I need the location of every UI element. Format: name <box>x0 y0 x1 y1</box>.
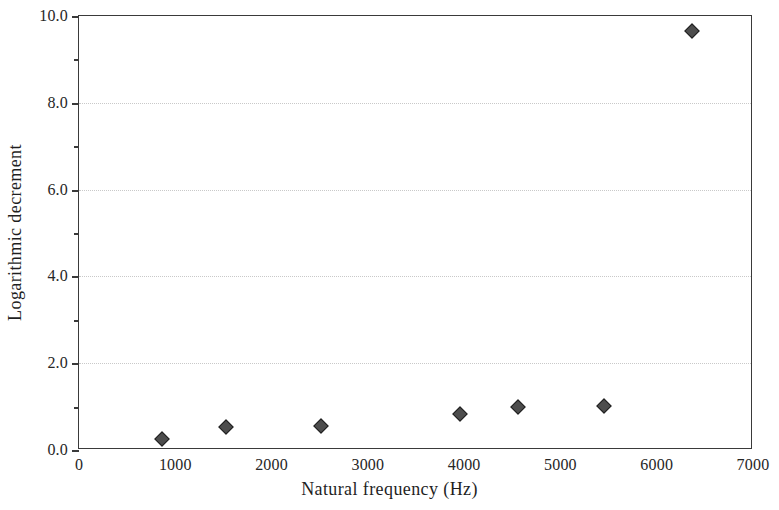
y-axis-tick <box>72 103 79 105</box>
data-point-marker <box>218 420 234 436</box>
plot-inner: 0.02.04.06.08.010.0 01000200030004000500… <box>79 16 751 448</box>
x-axis-title: Natural frequency (Hz) <box>0 479 779 500</box>
data-point-marker <box>510 399 526 415</box>
y-axis-minor-tick <box>74 320 79 322</box>
y-axis-title: Logarithmic decrement <box>4 15 26 449</box>
y-axis-minor-tick <box>74 59 79 61</box>
x-axis-tick-label: 7000 <box>737 457 770 473</box>
y-axis-tick-label: 8.0 <box>47 95 68 111</box>
y-axis-title-text: Logarithmic decrement <box>5 144 26 321</box>
y-axis-minor-tick <box>74 233 79 235</box>
x-axis-tick-label: 5000 <box>544 457 577 473</box>
x-axis-tick-label: 3000 <box>351 457 384 473</box>
y-axis-tick-label: 2.0 <box>47 355 68 371</box>
x-axis-tick-label: 1000 <box>159 457 192 473</box>
y-axis-tick-label: 0.0 <box>47 442 68 458</box>
gridline-horizontal <box>79 363 751 364</box>
y-axis-tick-label: 4.0 <box>47 268 68 284</box>
y-axis-tick-label: 10.0 <box>39 8 68 24</box>
y-axis-tick-label: 6.0 <box>47 182 68 198</box>
chart-figure: Logarithmic decrement 0.02.04.06.08.010.… <box>0 0 779 510</box>
data-point-marker <box>684 23 700 39</box>
y-axis-tick <box>72 363 79 365</box>
x-axis-title-text: Natural frequency (Hz) <box>301 479 478 499</box>
data-point-marker <box>314 418 330 434</box>
y-axis-tick <box>72 276 79 278</box>
y-axis-tick <box>72 190 79 192</box>
y-axis-minor-tick <box>74 407 79 409</box>
y-axis-minor-tick <box>74 146 79 148</box>
x-axis-tick-label: 6000 <box>640 457 673 473</box>
data-point-marker <box>452 407 468 423</box>
gridline-horizontal <box>79 190 751 191</box>
y-axis-tick <box>72 16 79 18</box>
x-axis-tick-label: 4000 <box>448 457 481 473</box>
gridline-horizontal <box>79 103 751 104</box>
gridline-horizontal <box>79 276 751 277</box>
plot-area: 0.02.04.06.08.010.0 01000200030004000500… <box>78 15 752 449</box>
x-axis-tick-label: 0 <box>75 457 83 473</box>
x-axis-tick-label: 2000 <box>255 457 288 473</box>
data-point-marker <box>596 398 612 414</box>
data-point-marker <box>154 431 170 447</box>
y-axis-tick <box>72 450 79 452</box>
